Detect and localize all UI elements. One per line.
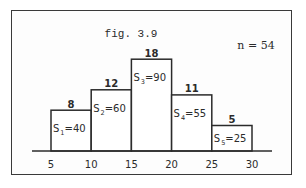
bar-value-label: 11 [185, 83, 199, 94]
chart-title: fig. 3.9 [105, 28, 158, 40]
x-tick-label: 10 [85, 159, 98, 170]
bar-value-label: 18 [145, 48, 159, 59]
x-tick-label: 25 [205, 159, 218, 170]
histogram-bar [172, 95, 212, 151]
sample-size-annotation: n = 54 [237, 39, 274, 52]
bar-value-label: 8 [68, 99, 75, 110]
x-tick-label: 20 [165, 159, 178, 170]
bar-value-label: 12 [104, 78, 118, 89]
x-tick-label: 30 [246, 159, 259, 170]
histogram-bar [91, 90, 131, 151]
x-tick-labels: 51015202530 [48, 159, 259, 170]
x-tick-label: 5 [48, 159, 54, 170]
histogram-chart: fig. 3.9 n = 54 8S1=4012S2=6018S3=9011S4… [0, 0, 306, 188]
x-tick-label: 15 [125, 159, 138, 170]
bars-group: 8S1=4012S2=6018S3=9011S4=555S5=25 [51, 48, 252, 151]
bar-value-label: 5 [228, 114, 235, 125]
